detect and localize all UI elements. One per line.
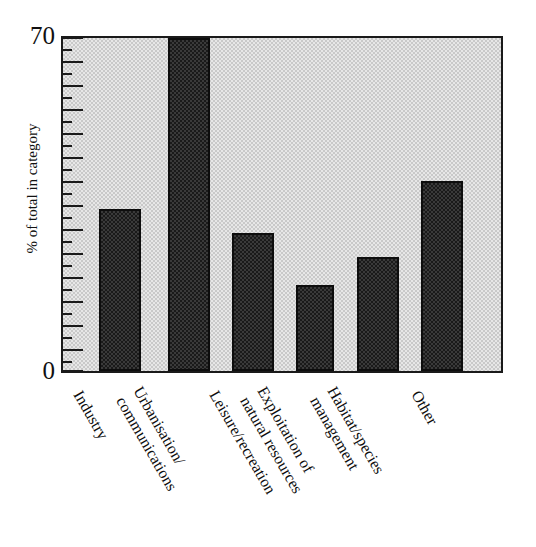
y-tick-major xyxy=(61,349,83,351)
y-tick-major xyxy=(61,325,83,327)
y-tick-minor xyxy=(61,73,72,75)
bar-habitat-species-management xyxy=(357,257,399,371)
y-tick-minor xyxy=(61,337,72,339)
bar-chart-figure: 70 0 % of total in category Industry Urb… xyxy=(0,0,536,547)
y-axis-ticks xyxy=(61,36,87,373)
y-tick-minor xyxy=(61,97,72,99)
y-tick-major xyxy=(61,157,83,159)
y-axis-title: % of total in category xyxy=(24,89,41,289)
bar-urbanisation-communications xyxy=(168,38,210,371)
y-tick-major xyxy=(61,61,83,63)
y-tick-minor xyxy=(61,265,72,267)
x-label-industry: Industry xyxy=(70,387,113,443)
y-tick-major xyxy=(61,301,83,303)
x-axis-labels: Industry Urbanisation/ communications Le… xyxy=(0,373,536,547)
y-tick-minor xyxy=(61,217,72,219)
y-tick-minor xyxy=(61,313,72,315)
y-tick-minor xyxy=(61,169,72,171)
y-tick-major xyxy=(61,133,83,135)
y-tick-minor xyxy=(61,289,72,291)
bar-leisure-recreation xyxy=(232,233,274,371)
y-tick-major xyxy=(61,370,83,372)
y-tick-minor xyxy=(61,241,72,243)
plot-area xyxy=(61,36,503,373)
y-tick-major xyxy=(61,229,83,231)
x-label-line1: Other xyxy=(408,388,441,428)
y-tick-major xyxy=(61,181,83,183)
y-axis-label-max: 70 xyxy=(0,23,55,48)
y-tick-major xyxy=(61,37,83,39)
y-tick-major xyxy=(61,109,83,111)
x-label-urbanisation-communications: Urbanisation/ communications xyxy=(111,383,199,495)
y-tick-minor xyxy=(61,121,72,123)
y-tick-major xyxy=(61,277,83,279)
x-label-other: Other xyxy=(408,387,443,428)
y-tick-major xyxy=(61,253,83,255)
y-tick-major xyxy=(61,85,83,87)
y-tick-minor xyxy=(61,361,72,363)
y-tick-minor xyxy=(61,145,72,147)
y-tick-minor xyxy=(61,193,72,195)
y-tick-minor xyxy=(61,49,72,51)
bar-exploitation-natural-resources xyxy=(296,285,334,371)
y-tick-major xyxy=(61,205,83,207)
bar-industry xyxy=(99,209,141,371)
x-label-line1: Industry xyxy=(70,388,111,443)
bar-other xyxy=(421,181,463,371)
